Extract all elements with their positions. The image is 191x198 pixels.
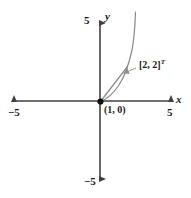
x-axis-name-label: x bbox=[176, 94, 182, 105]
y-axis-tick-label-positive: 5 bbox=[84, 15, 90, 26]
vector-annotation-text: [2, 2] bbox=[139, 59, 161, 70]
point-marker-dot bbox=[97, 98, 103, 104]
coordinate-plot-canvas bbox=[0, 0, 191, 198]
y-axis-name-label: y bbox=[105, 11, 110, 22]
vector-segment bbox=[101, 67, 128, 102]
x-axis-tick-label-positive: 5 bbox=[167, 107, 173, 118]
y-axis-tick-label-negative: −5 bbox=[84, 176, 96, 187]
point-coordinate-label: (1, 0) bbox=[104, 105, 126, 115]
graph-figure: 5 −5 5 −5 y x (1, 0) [2, 2]T bbox=[0, 0, 191, 198]
vector-annotation-label: [2, 2]T bbox=[139, 60, 165, 70]
curve-path bbox=[101, 12, 136, 102]
x-axis-tick-label-negative: −5 bbox=[8, 107, 20, 118]
vector-transpose-superscript: T bbox=[161, 58, 165, 66]
